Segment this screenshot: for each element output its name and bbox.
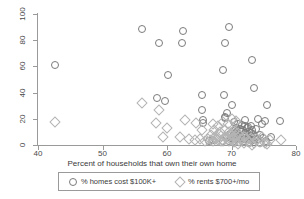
y-axis-tick-label: 20 <box>19 110 27 128</box>
data-point-circle <box>219 66 227 74</box>
x-axis-tick-label: 50 <box>93 149 113 158</box>
y-axis-tick-label: 0 <box>19 136 27 154</box>
y-axis-tick <box>33 93 37 94</box>
data-point-circle <box>225 23 233 31</box>
x-axis-title: Percent of households that own their own… <box>0 159 304 168</box>
data-point-circle <box>198 91 206 99</box>
x-axis-tick-label: 60 <box>157 149 177 158</box>
y-axis-tick <box>33 119 37 120</box>
data-point-circle <box>153 94 161 102</box>
data-point-circle <box>250 84 258 92</box>
data-point-circle <box>220 91 228 99</box>
plot-area <box>38 14 296 145</box>
chart-legend: % homes cost $100K+ % rents $700+/mo <box>58 172 260 191</box>
data-point-circle <box>164 71 172 79</box>
y-axis-tick <box>33 145 37 146</box>
data-point-diamond <box>275 134 286 145</box>
y-axis-tick-label: 40 <box>19 84 27 102</box>
legend-entry-homes-cost: % homes cost $100K+ <box>69 178 156 186</box>
data-point-diamond <box>150 117 161 128</box>
y-axis-tick-label: 100 <box>19 5 27 23</box>
data-point-circle <box>178 39 186 47</box>
scatter-plot-figure: 020406080100 4050607080 Percent of house… <box>0 0 304 199</box>
legend-diamond-marker-icon <box>174 176 185 187</box>
data-point-circle <box>155 39 163 47</box>
legend-label-rents: % rents $700+/mo <box>188 178 249 186</box>
x-axis-tick-label: 40 <box>28 149 48 158</box>
data-point-diamond <box>179 114 190 125</box>
data-point-diamond <box>137 98 148 109</box>
data-point-diamond <box>153 104 164 115</box>
x-axis-tick-label: 80 <box>286 149 304 158</box>
legend-entry-rents: % rents $700+/mo <box>176 178 249 186</box>
data-point-circle <box>161 97 169 105</box>
data-point-circle <box>179 27 187 35</box>
legend-circle-marker-icon <box>69 178 77 186</box>
data-point-diamond <box>49 117 60 128</box>
data-point-circle <box>198 106 206 114</box>
y-axis-tick-label: 60 <box>19 57 27 75</box>
data-point-circle <box>276 117 284 125</box>
data-point-circle <box>221 39 229 47</box>
data-point-circle <box>248 56 256 64</box>
data-point-circle <box>263 101 271 109</box>
y-axis-tick <box>33 14 37 15</box>
legend-label-homes-cost: % homes cost $100K+ <box>81 178 156 186</box>
data-point-circle <box>228 101 236 109</box>
y-axis-tick-label: 80 <box>19 31 27 49</box>
y-axis-tick <box>33 66 37 67</box>
y-axis-tick <box>33 40 37 41</box>
x-axis-tick-label: 70 <box>222 149 242 158</box>
data-point-circle <box>51 61 59 69</box>
data-point-circle <box>138 25 146 33</box>
